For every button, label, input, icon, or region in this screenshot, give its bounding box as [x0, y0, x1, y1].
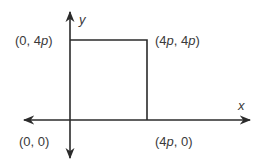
y-axis-label: y — [78, 12, 87, 27]
vertex-label-bottom-right: (4p, 0) — [155, 134, 193, 149]
square-outline — [70, 40, 147, 120]
vertex-label-top-right: (4p, 4p) — [155, 33, 200, 48]
vertex-label-origin: (0, 0) — [19, 134, 49, 149]
vertex-label-top-left: (0, 4p) — [15, 33, 53, 48]
x-axis-label: x — [237, 98, 245, 113]
coordinate-diagram: y x (0, 4p) (4p, 4p) (0, 0) (4p, 0) — [0, 0, 264, 165]
